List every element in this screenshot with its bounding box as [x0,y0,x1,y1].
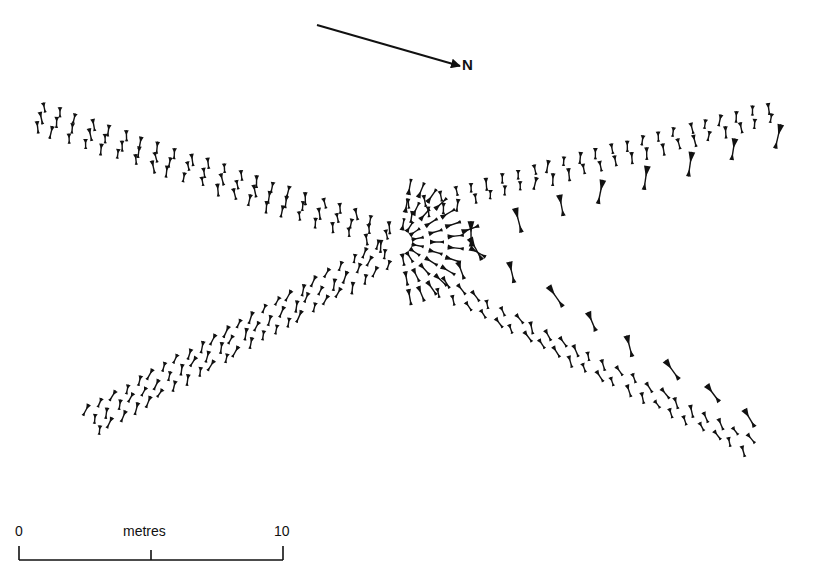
stake-rows [35,102,785,457]
scale-unit-label: metres [123,523,166,539]
scale-start-label: 0 [15,523,23,539]
scale-end-label: 10 [274,523,290,539]
north-label: N [462,56,473,73]
stake-plan-diagram [0,0,814,587]
north-arrow-icon [317,25,460,66]
scale-bar [19,546,283,560]
